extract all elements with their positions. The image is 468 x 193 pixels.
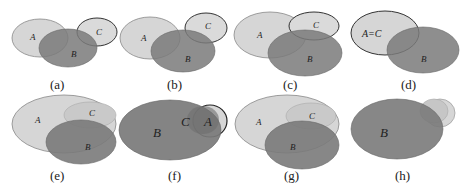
set-b-ellipse — [265, 121, 339, 169]
label-c: C — [205, 21, 212, 31]
panel-g: A C B (g) — [235, 95, 339, 183]
label-c: C — [181, 114, 190, 129]
caption-g: (g) — [284, 168, 299, 183]
panel-e: A C B (e) — [12, 95, 116, 183]
panel-b: A C B (b) — [120, 13, 227, 92]
caption-f: (f) — [168, 168, 181, 183]
venn-figure: A C B (a) A C B (b) A C B (c) A=C B (d) … — [0, 0, 468, 193]
set-b-ellipse — [351, 99, 443, 159]
label-c: C — [96, 27, 103, 37]
set-b-ellipse — [46, 120, 116, 164]
panel-a: A C B (a) — [12, 18, 117, 92]
label-c: C — [89, 108, 96, 118]
label-b: B — [185, 54, 191, 64]
label-b: B — [380, 125, 388, 140]
panel-f: B C A (f) — [119, 100, 227, 183]
label-b: B — [421, 54, 427, 64]
label-c: C — [313, 20, 320, 30]
label-ac: A=C — [361, 28, 382, 39]
label-a: A — [256, 30, 263, 40]
panel-c: A C B (c) — [234, 12, 342, 92]
label-b: B — [290, 142, 296, 152]
panel-h: B (h) — [351, 99, 455, 183]
label-b: B — [307, 54, 313, 64]
label-a: A — [29, 32, 36, 42]
label-c: C — [309, 111, 316, 121]
label-b: B — [85, 142, 91, 152]
set-c-ellipse — [187, 106, 219, 134]
caption-c: (c) — [283, 77, 297, 92]
set-b-ellipse — [268, 30, 342, 76]
label-b: B — [153, 125, 161, 140]
caption-d: (d) — [401, 77, 416, 92]
caption-b: (b) — [167, 77, 182, 92]
set-b-ellipse — [151, 30, 215, 72]
caption-a: (a) — [50, 77, 64, 92]
set-b-ellipse — [39, 29, 97, 67]
set-b-ellipse — [387, 27, 459, 73]
caption-h: (h) — [395, 168, 410, 183]
panel-d: A=C B (d) — [351, 11, 459, 92]
label-b: B — [71, 49, 77, 59]
label-a: A — [203, 114, 212, 129]
label-a: A — [140, 33, 147, 43]
caption-e: (e) — [50, 168, 64, 183]
label-a: A — [255, 117, 262, 127]
label-a: A — [34, 115, 41, 125]
